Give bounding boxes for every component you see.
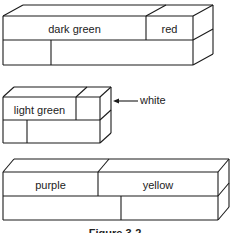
figure-caption: Figure 3-2 bbox=[89, 227, 142, 233]
rod-label-dark-green: dark green bbox=[48, 24, 101, 35]
rod-label-yellow: yellow bbox=[143, 180, 174, 191]
rod-label-light-green: light green bbox=[14, 104, 65, 115]
arrow-head-icon bbox=[113, 99, 119, 104]
diagram-canvas bbox=[0, 0, 230, 233]
side-row-divider bbox=[218, 183, 229, 196]
side-row-divider bbox=[100, 110, 111, 120]
callout-label-white: white bbox=[140, 95, 166, 106]
rod-label-red: red bbox=[162, 24, 178, 35]
rod-trains-diagram: dark greenredlight greenwhitepurpleyello… bbox=[0, 0, 230, 233]
side-bottom-depth-edge bbox=[218, 207, 229, 220]
top-right-depth-edge bbox=[193, 5, 213, 16]
top-left-depth-edge bbox=[3, 159, 14, 172]
rod-label-purple: purple bbox=[35, 180, 66, 191]
top-left-depth-edge bbox=[3, 87, 14, 97]
top-right-depth-edge bbox=[100, 87, 111, 97]
top-face-rod-divider bbox=[98, 159, 109, 172]
side-bottom-depth-edge bbox=[100, 133, 111, 143]
top-face-rod-divider bbox=[76, 87, 87, 97]
top-left-depth-edge bbox=[3, 5, 23, 16]
rod-train-1 bbox=[3, 5, 213, 65]
rod-train-2 bbox=[3, 87, 138, 143]
top-right-depth-edge bbox=[218, 159, 229, 172]
side-bottom-depth-edge bbox=[193, 54, 213, 65]
top-face-rod-divider bbox=[146, 5, 166, 16]
side-row-divider bbox=[193, 29, 213, 40]
